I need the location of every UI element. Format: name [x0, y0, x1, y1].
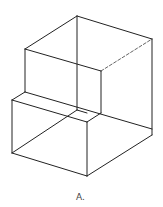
- figure-label: A.: [76, 192, 85, 202]
- edge: [12, 92, 25, 100]
- edge: [25, 49, 101, 71]
- edge: [87, 135, 152, 176]
- edge: [12, 110, 77, 153]
- hidden-edge: [101, 39, 152, 71]
- isometric-solid-diagram: [0, 0, 163, 207]
- edge: [87, 113, 101, 122]
- edge: [77, 16, 152, 39]
- edge: [25, 16, 77, 49]
- edge: [77, 110, 87, 113]
- edge: [12, 153, 87, 176]
- edge: [25, 92, 152, 129]
